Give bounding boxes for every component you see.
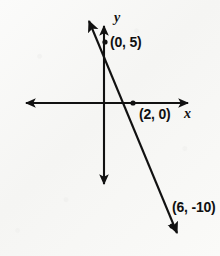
graph-figure: y x (0, 5) (2, 0) (6, -10)	[0, 0, 220, 256]
point-marker-2-0	[130, 100, 135, 105]
graph-line	[89, 21, 177, 233]
point-marker-0-5	[102, 39, 107, 44]
x-axis-label: x	[184, 107, 191, 121]
point-label-0-5: (0, 5)	[110, 35, 141, 49]
point-label-2-0: (2, 0)	[139, 107, 170, 121]
y-axis-label: y	[114, 11, 120, 25]
point-marker-6-neg10	[169, 223, 174, 228]
point-label-6-neg10: (6, -10)	[172, 200, 216, 214]
